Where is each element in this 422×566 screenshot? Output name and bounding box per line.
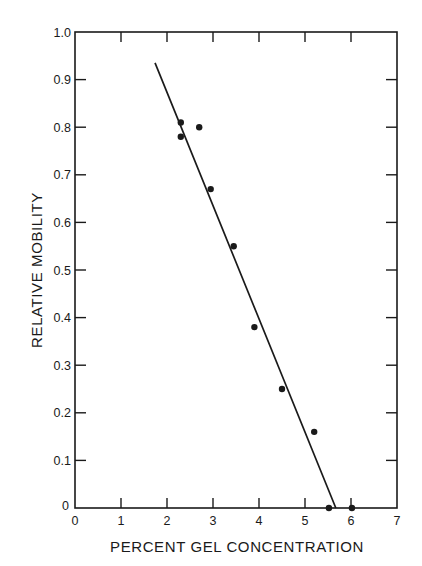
data-point bbox=[196, 124, 202, 130]
y-tick-label: 0.1 bbox=[54, 454, 71, 468]
x-tick-label: 2 bbox=[164, 514, 171, 528]
y-axis-ticks bbox=[75, 80, 397, 461]
data-point bbox=[349, 505, 355, 511]
data-point bbox=[231, 243, 237, 249]
y-tick-label: 0.7 bbox=[54, 168, 71, 182]
data-point bbox=[326, 505, 332, 511]
y-tick-label: 0.3 bbox=[54, 359, 71, 373]
data-point bbox=[178, 119, 184, 125]
data-point bbox=[279, 386, 285, 392]
x-tick-label: 7 bbox=[394, 514, 401, 528]
y-tick-label: 0.8 bbox=[54, 121, 71, 135]
fit-line-path bbox=[155, 63, 336, 508]
y-tick-label: 0.5 bbox=[54, 264, 71, 278]
data-points bbox=[178, 119, 356, 511]
x-axis-title: PERCENT GEL CONCENTRATION bbox=[110, 538, 364, 555]
y-tick-label: 0.2 bbox=[54, 406, 71, 420]
x-tick-label: 0 bbox=[72, 514, 79, 528]
x-tick-label: 1 bbox=[118, 514, 125, 528]
data-point bbox=[208, 186, 214, 192]
y-axis-tick-labels: 00.10.20.30.40.50.60.70.80.91.0 bbox=[54, 26, 71, 514]
x-tick-label: 5 bbox=[302, 514, 309, 528]
chart: 01234567 00.10.20.30.40.50.60.70.80.91.0… bbox=[0, 0, 422, 566]
data-point bbox=[311, 429, 317, 435]
y-tick-label: 0.9 bbox=[54, 73, 71, 87]
y-tick-label: 1.0 bbox=[54, 26, 71, 40]
y-axis-title: RELATIVE MOBILITY bbox=[28, 192, 45, 348]
y-tick-label: 0.6 bbox=[54, 216, 71, 230]
plot-border bbox=[75, 32, 397, 508]
x-axis-tick-labels: 01234567 bbox=[72, 514, 401, 528]
x-axis-ticks bbox=[121, 32, 351, 508]
y-tick-label: 0.4 bbox=[54, 311, 71, 325]
x-tick-label: 4 bbox=[256, 514, 263, 528]
plot-frame bbox=[75, 32, 397, 508]
fit-line bbox=[155, 63, 336, 508]
x-tick-label: 3 bbox=[210, 514, 217, 528]
data-point bbox=[251, 324, 257, 330]
data-point bbox=[178, 134, 184, 140]
x-tick-label: 6 bbox=[348, 514, 355, 528]
y-tick-label: 0 bbox=[62, 499, 69, 513]
